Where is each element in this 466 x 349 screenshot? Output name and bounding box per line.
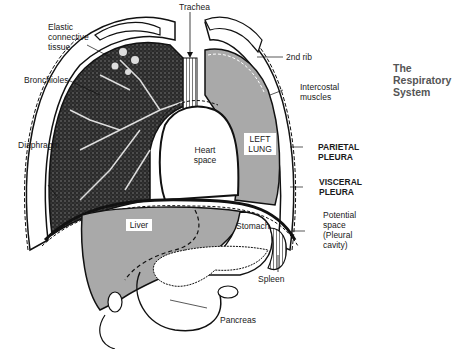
label-bronchioles: Bronchioles bbox=[24, 75, 68, 85]
label-visceral-pleura: VISCERAL PLEURA bbox=[319, 177, 362, 197]
diagram-title: The Respiratory System bbox=[393, 62, 466, 98]
label-diaphragm: Diaphragm bbox=[18, 140, 60, 150]
label-left-lung: LEFT LUNG bbox=[244, 133, 276, 155]
label-parietal-pleura: PARIETAL PLEURA bbox=[318, 142, 359, 162]
label-2nd-rib: 2nd rib bbox=[286, 52, 312, 62]
label-intercostal-muscles: Intercostal muscles bbox=[300, 82, 339, 102]
label-stomach: Stomach bbox=[236, 221, 270, 231]
trachea bbox=[183, 12, 197, 113]
label-elastic-connective-tissue: Elastic connective tissue bbox=[48, 22, 89, 52]
label-spleen: Spleen bbox=[258, 274, 284, 284]
label-potential-space: Potential space (Pleural cavity) bbox=[323, 210, 356, 250]
label-liver: Liver bbox=[126, 219, 152, 231]
label-heart-space: Heart space bbox=[190, 145, 220, 165]
respiratory-system-diagram bbox=[0, 0, 466, 349]
label-trachea: Trachea bbox=[179, 2, 210, 12]
label-pancreas: Pancreas bbox=[220, 315, 256, 325]
